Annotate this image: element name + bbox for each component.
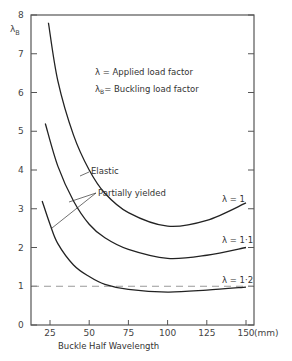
svg-text:6: 6 (18, 88, 24, 98)
svg-text:4: 4 (18, 165, 24, 175)
y-axis-label: λB (10, 24, 20, 37)
yielded-leader-1 (69, 193, 96, 202)
svg-text:75: 75 (123, 328, 134, 338)
svg-text:150: 150 (237, 328, 254, 338)
svg-text:125: 125 (198, 328, 215, 338)
svg-text:5: 5 (18, 126, 24, 136)
svg-text:2: 2 (18, 243, 24, 253)
svg-text:8: 8 (18, 10, 24, 20)
svg-text:100: 100 (159, 328, 176, 338)
note-buckling-load: λB= Buckling load factor (95, 84, 199, 95)
series-label-lambda-1-1: λ = 1·1 (222, 235, 253, 245)
svg-text:0: 0 (18, 320, 24, 330)
elastic-leader (80, 172, 89, 176)
plot-frame (31, 15, 254, 325)
svg-text:25: 25 (44, 328, 55, 338)
note-applied-load: λ = Applied load factor (95, 67, 193, 77)
series-label-lambda-1-2: λ = 1·2 (222, 275, 253, 285)
buckling-chart: 012345678 255075100125150 λB λ = Applied… (0, 0, 292, 361)
svg-text:50: 50 (83, 328, 95, 338)
svg-text:7: 7 (18, 49, 24, 59)
svg-text:3: 3 (18, 204, 24, 214)
x-axis-label: Buckle Half Wavelength (58, 341, 159, 351)
svg-text:1: 1 (18, 281, 24, 291)
x-axis-ticks: 255075100125150 (44, 320, 255, 338)
curve-series-3 (42, 201, 246, 292)
annotation-partially-yielded: Partially yielded (98, 188, 166, 198)
x-axis-unit: (mm) (254, 328, 279, 338)
series-label-lambda-1: λ = 1 (222, 194, 245, 204)
curves (42, 23, 246, 292)
yielded-leader-2 (52, 193, 96, 228)
annotation-elastic: Elastic (91, 166, 119, 176)
